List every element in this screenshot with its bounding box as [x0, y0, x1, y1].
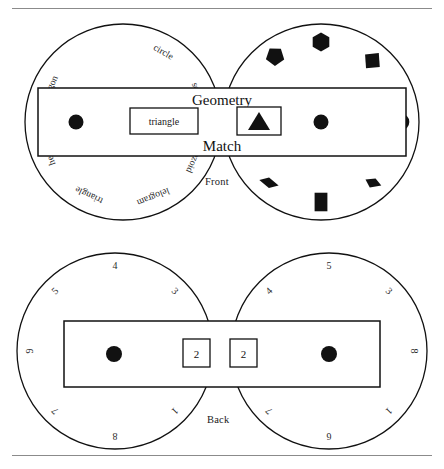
left-number-3: 8: [113, 431, 118, 442]
left-hub-dot[interactable]: [69, 115, 84, 130]
right-number-4: 6: [327, 431, 332, 442]
back-window-right-value: 2: [241, 348, 247, 360]
left-number-0: 4: [113, 260, 118, 271]
back-panel: 4318795 5381674 2 2: [0, 248, 444, 458]
word-window-label: triangle: [149, 116, 180, 127]
square-icon: [315, 193, 328, 212]
right-number-0: 5: [327, 260, 332, 271]
back-right-hub-dot[interactable]: [321, 346, 337, 362]
left-number-5: 9: [24, 349, 35, 354]
right-number-2: 8: [409, 349, 420, 354]
header-rule: [12, 8, 432, 9]
title-line-2: Match: [203, 138, 242, 154]
geometry-match-figure: Front Back circlesquaretrapezoidlelogram…: [0, 0, 444, 469]
title-line-1: Geometry: [192, 92, 252, 108]
back-window-left-value: 2: [194, 348, 200, 360]
front-panel: circlesquaretrapezoidlelogramtrianglehex…: [0, 12, 444, 242]
back-left-hub-dot[interactable]: [106, 346, 122, 362]
right-hub-dot[interactable]: [314, 115, 329, 130]
